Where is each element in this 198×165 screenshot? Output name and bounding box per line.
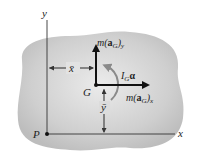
x-axis-label: x bbox=[177, 127, 183, 139]
kinetic-diagram: y x P x̄ ȳ G m(aG)y IGα m(aG)x bbox=[0, 0, 198, 165]
center-of-mass-g bbox=[94, 83, 98, 87]
point-p-label: P bbox=[32, 128, 40, 140]
y-axis-label: y bbox=[41, 7, 47, 19]
point-p bbox=[45, 132, 49, 136]
g-label: G bbox=[83, 86, 91, 98]
x-bar-label: x̄ bbox=[68, 62, 74, 74]
rigid-body bbox=[18, 32, 184, 151]
